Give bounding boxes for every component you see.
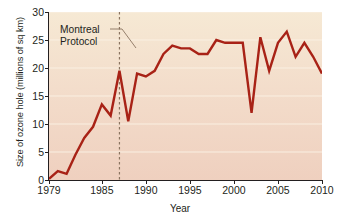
x-tick-mark [234,180,235,184]
series-line [49,32,322,179]
y-tick-label: 30 [22,7,44,17]
annotation-line-2: Protocol [60,36,100,48]
y-tick-label: 5 [22,147,44,157]
x-tick-mark [146,180,147,184]
x-tick-label: 1990 [124,184,168,196]
x-tick-label: 1985 [80,184,124,196]
ozone-hole-data-line [49,32,322,179]
x-tick-label: 2005 [256,184,300,196]
x-tick-label: 1995 [168,184,212,196]
y-tick-label: 0 [22,175,44,185]
x-axis-line [48,180,323,181]
y-tick-label: 25 [22,35,44,45]
x-tick-label: 2000 [212,184,256,196]
annotation-line-1: Montreal [60,24,100,36]
x-tick-label: 1979 [27,184,71,196]
y-tick-label: 15 [22,91,44,101]
y-tick-label: 20 [22,63,44,73]
montreal-protocol-annotation: Montreal Protocol [60,24,100,47]
x-tick-mark [102,180,103,184]
y-tick-label: 10 [22,119,44,129]
x-axis-title: Year [38,203,322,214]
x-tick-mark [278,180,279,184]
ozone-hole-chart-figure: Size of ozone hole (millions of sq km) 0… [0,0,346,222]
x-tick-mark [322,180,323,184]
x-tick-mark [190,180,191,184]
x-tick-mark [49,180,50,184]
x-tick-label: 2010 [300,184,344,196]
